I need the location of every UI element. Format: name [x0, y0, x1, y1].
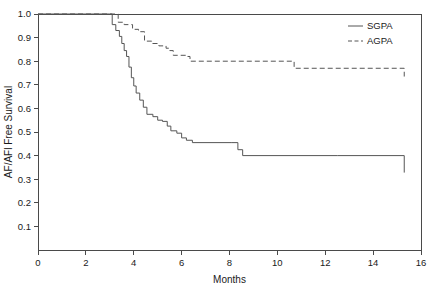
- x-tick-label: 2: [83, 257, 88, 268]
- y-tick-label: 0.3: [18, 174, 31, 185]
- x-tick-label: 4: [131, 257, 136, 268]
- y-tick-label: 0.8: [18, 56, 31, 67]
- y-tick-label: 0.9: [18, 32, 31, 43]
- x-tick-label: 0: [35, 257, 40, 268]
- y-tick-label: 0.5: [18, 126, 31, 137]
- series-group: [38, 14, 404, 173]
- y-tick-label: 1.0: [18, 8, 31, 19]
- x-tick-label: 14: [368, 257, 379, 268]
- survival-chart: 0.10.20.30.40.50.60.70.80.91.0 024681012…: [0, 0, 447, 290]
- chart-legend: SGPAAGPA: [348, 20, 393, 46]
- series-line-agpa: [38, 14, 404, 77]
- x-tick-label: 10: [272, 257, 283, 268]
- x-axis-title: Months: [213, 274, 246, 285]
- y-tick-label: 0.4: [18, 150, 31, 161]
- plot-frame: [38, 14, 421, 250]
- x-axis-ticks: 0246810121416: [35, 250, 426, 268]
- y-tick-label: 0.6: [18, 103, 31, 114]
- y-tick-label: 0.2: [18, 197, 31, 208]
- x-tick-label: 16: [416, 257, 427, 268]
- y-tick-label: 0.1: [18, 221, 31, 232]
- y-axis-ticks: 0.10.20.30.40.50.60.70.80.91.0: [18, 8, 38, 231]
- y-axis-title: AF/AFl Free Survival: [3, 86, 14, 178]
- x-tick-label: 12: [320, 257, 331, 268]
- x-tick-label: 6: [179, 257, 184, 268]
- legend-label-agpa: AGPA: [367, 35, 393, 46]
- series-line-sgpa: [38, 14, 404, 173]
- chart-canvas: 0.10.20.30.40.50.60.70.80.91.0 024681012…: [0, 0, 447, 290]
- x-tick-label: 8: [227, 257, 232, 268]
- legend-label-sgpa: SGPA: [367, 20, 393, 31]
- plot-border: [38, 14, 421, 250]
- y-tick-label: 0.7: [18, 79, 31, 90]
